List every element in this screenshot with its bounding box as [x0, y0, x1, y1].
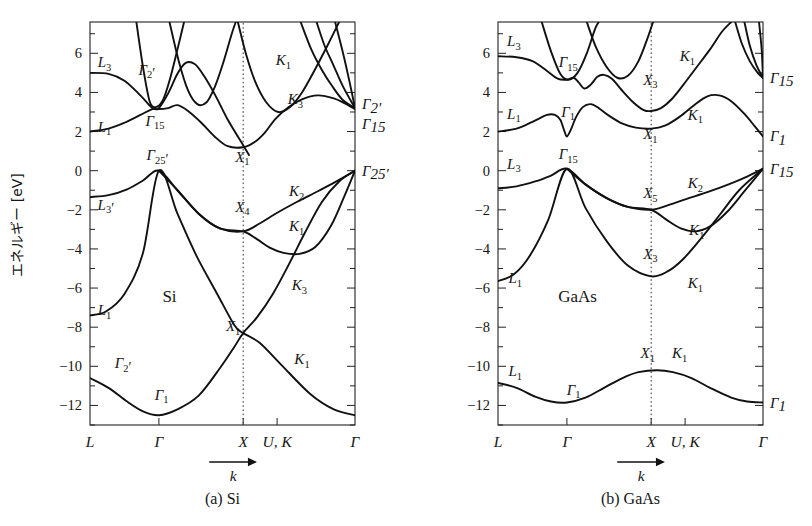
band-point-label: Γ2′	[138, 62, 156, 82]
band-structure-figure: 6420−2−4−6−8−10−12LΓXU, KΓL3L1L3′L1Γ2′Γ1…	[0, 0, 812, 526]
k-axis-arrow	[209, 458, 257, 466]
band-point-label: L1	[506, 106, 521, 125]
band-point-label: Γ15	[558, 54, 578, 73]
y-axis-ticks	[498, 34, 763, 425]
band-curve	[90, 170, 355, 415]
x-tick-label: Γ	[153, 433, 164, 450]
band-point-label: X4	[234, 199, 250, 218]
material-label: GaAs	[558, 287, 597, 306]
band-point-label: Γ15	[144, 113, 164, 132]
x-tick-label: Γ	[758, 433, 769, 450]
x-tick-label: Γ	[561, 433, 572, 450]
y-tick-label: 6	[483, 45, 490, 61]
y-tick-label: −2	[475, 202, 490, 218]
band-point-label: L1	[97, 302, 112, 321]
y-tick-label: −10	[59, 358, 82, 374]
band-point-label: L3′	[97, 197, 115, 217]
x-tick-label: U, K	[670, 433, 700, 450]
band-point-label: X3	[642, 246, 657, 265]
band-point-label: X1	[642, 126, 657, 145]
band-point-label: Γ1	[154, 387, 169, 406]
x-tick-label: Γ	[350, 433, 361, 450]
y-tick-label: 6	[75, 45, 82, 61]
panel-gaas: 6420−2−4−6−8−10−12LΓXU, KΓL3L1L3L1L1Γ15Γ…	[467, 22, 794, 508]
band-point-label: Γ15	[769, 70, 794, 90]
band-curve	[90, 171, 355, 416]
y-tick-label: −12	[467, 397, 490, 413]
band-point-label: L3	[506, 156, 521, 175]
y-tick-label: 2	[75, 124, 82, 140]
arrow-head-icon	[248, 458, 257, 466]
band-point-label: L1	[97, 119, 112, 138]
band-point-label: Γ2′	[361, 96, 382, 116]
band-point-label: Γ15	[769, 161, 794, 181]
band-point-label: K1	[288, 218, 304, 237]
band-point-label: K1	[275, 52, 291, 71]
x-axis-ticks: LΓXU, KΓ	[493, 418, 769, 450]
x-tick-label: L	[85, 433, 95, 450]
band-point-label: L3	[506, 33, 521, 52]
band-curve	[170, 22, 236, 105]
y-tick-label: −2	[67, 202, 82, 218]
panel-caption: (a) Si	[205, 490, 241, 508]
y-tick-label: 4	[483, 84, 491, 100]
band-point-label: K2	[288, 183, 304, 202]
band-point-label: L1	[507, 363, 522, 382]
y-tick-label: −8	[475, 319, 490, 335]
right-edge-labels: Γ15Γ1Γ15Γ1	[769, 70, 794, 414]
band-point-label: X3	[642, 72, 657, 91]
k-axis-arrow	[617, 458, 665, 466]
band-point-label: K1	[687, 275, 703, 294]
band-point-label: L3	[97, 54, 112, 73]
y-tick-label: −4	[67, 241, 83, 257]
band-structure-svg: 6420−2−4−6−8−10−12LΓXU, KΓL3L1L3′L1Γ2′Γ1…	[0, 0, 812, 526]
band-point-label: Γ1	[769, 128, 786, 148]
band-point-label: K1	[293, 351, 309, 370]
band-point-label: Γ25′	[146, 147, 169, 167]
x-tick-label: X	[237, 433, 248, 450]
y-tick-label: 4	[75, 84, 83, 100]
x-tick-label: U, K	[262, 433, 292, 450]
band-point-label: Γ1	[560, 104, 575, 123]
band-point-label: X5	[642, 185, 657, 204]
x-tick-label: X	[645, 433, 656, 450]
y-axis-title: エネルギー [eV]	[9, 173, 25, 277]
band-point-label: K3	[291, 277, 307, 296]
plot-frame	[498, 22, 763, 425]
right-edge-labels: Γ2′Γ15Γ25′	[361, 96, 390, 182]
band-point-label: X1	[225, 318, 240, 337]
k-axis-label: k	[638, 467, 646, 484]
band-curve	[498, 22, 731, 111]
y-tick-label: −6	[67, 280, 82, 296]
band-point-label: K1	[679, 48, 695, 67]
band-curve	[759, 22, 763, 78]
x-axis-ticks: LΓXU, KΓ	[85, 418, 361, 450]
x-tick-label: L	[493, 433, 503, 450]
band-curve	[498, 95, 763, 137]
k-axis-label: k	[230, 467, 238, 484]
y-tick-label: 0	[483, 163, 490, 179]
y-tick-labels: 6420−2−4−6−8−10−12	[467, 45, 490, 413]
band-point-label: Γ15	[361, 116, 386, 136]
band-curve	[498, 370, 763, 403]
y-tick-label: 0	[75, 163, 82, 179]
y-tick-label: −4	[475, 241, 491, 257]
y-tick-label: −12	[59, 397, 82, 413]
band-point-label: Γ1	[566, 382, 581, 401]
panel-caption: (b) GaAs	[601, 490, 660, 508]
y-tick-labels: 6420−2−4−6−8−10−12	[59, 45, 82, 413]
panel-si: 6420−2−4−6−8−10−12LΓXU, KΓL3L1L3′L1Γ2′Γ1…	[59, 22, 389, 508]
band-curve	[159, 171, 355, 232]
band-point-label: X1	[640, 345, 655, 364]
band-point-label: K2	[687, 175, 703, 194]
band-point-label: Γ25′	[361, 163, 390, 183]
band-curve	[498, 168, 763, 231]
band-point-label: Γ1	[769, 395, 786, 415]
band-curves	[90, 22, 355, 415]
band-point-label: Γ15	[558, 146, 578, 165]
band-curve	[587, 22, 653, 79]
band-point-label: K1	[687, 107, 703, 126]
band-point-label: K1	[671, 345, 687, 364]
y-tick-label: −6	[475, 280, 490, 296]
band-point-labels: L3L1L3L1L1Γ15Γ1Γ15Γ1X3X1X5X3X1K1K1K2K1K1…	[506, 33, 704, 400]
